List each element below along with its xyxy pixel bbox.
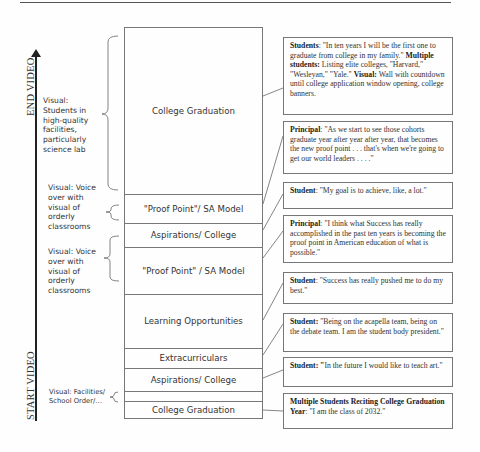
segment-college-graduation-end: College Graduation [125, 28, 262, 194]
segment-proof-point-1: "Proof Point"/ SA Model [125, 194, 262, 223]
quote-text: In the future I would like to teach art.… [324, 361, 442, 370]
quote-speaker: Student [290, 186, 316, 195]
segment-aspirations-2: Aspirations/ College [125, 368, 262, 391]
segment-college-graduation-start: College Graduation [125, 401, 262, 419]
quote-speaker: Student: " [290, 361, 324, 370]
segment-proof-point-2: "Proof Point" / SA Model [125, 247, 262, 294]
quote-speaker: Visual: [354, 70, 377, 79]
bracket-2 [106, 205, 119, 220]
quote-box-3: Student: "My goal is to achieve, like, a… [283, 182, 453, 209]
quote-box-2: Principal: "As we start to see those coh… [283, 121, 453, 174]
bracket-1 [102, 36, 118, 190]
bracket-4 [110, 392, 118, 402]
quote-text: : "I am the class of 2032." [305, 407, 385, 416]
sequence-column: College Graduation "Proof Point"/ SA Mod… [124, 27, 263, 419]
segment-learning-opportunities: Learning Opportunities [125, 294, 262, 348]
quote-box-8: Multiple Students Reciting College Gradu… [283, 393, 453, 429]
diagram: END VIDEO START VIDEO Visual: Students i… [0, 0, 480, 452]
quote-box-5: Student: "Success has really pushed me t… [283, 272, 453, 304]
quote-box-7: Student: "In the future I would like to … [283, 357, 453, 387]
quote-box-6: Student: "Being on the acapella team, be… [283, 313, 453, 352]
segment-facilities [125, 391, 262, 401]
segment-aspirations-1: Aspirations/ College [125, 223, 262, 247]
quote-speaker: Students [290, 41, 319, 50]
segment-extracurriculars: Extracurriculars [125, 348, 262, 368]
quote-speaker: Student [290, 276, 316, 285]
quote-box-4: Principal: "I think what Success has rea… [283, 215, 453, 263]
quote-box-1: Students: "In ten years I will be the fi… [283, 37, 453, 115]
quote-speaker: Principal [290, 125, 320, 134]
bracket-3 [104, 236, 119, 281]
quote-speaker: Student: [290, 317, 318, 326]
quote-text: : "My goal is to achieve, like, a lot." [316, 186, 427, 195]
quote-speaker: Principal [290, 219, 320, 228]
